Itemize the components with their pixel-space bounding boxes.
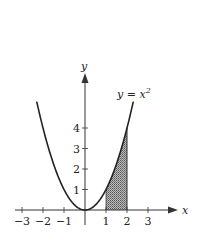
y-tick-label: 2 bbox=[73, 163, 80, 176]
x-tick-label: 3 bbox=[145, 215, 152, 228]
x-axis-label: x bbox=[182, 204, 189, 217]
x-tick-label: −1 bbox=[56, 215, 72, 228]
x-tick-label: −3 bbox=[14, 215, 30, 228]
y-tick-label: 4 bbox=[73, 122, 80, 135]
x-axis-arrow-icon bbox=[168, 207, 178, 214]
y-tick-label: 1 bbox=[73, 184, 80, 197]
curve-label: y = x2 bbox=[116, 86, 151, 101]
y-axis-arrow-icon bbox=[82, 73, 89, 83]
parabola-chart: −3−2−1123 1234 x y y = x2 bbox=[0, 0, 205, 244]
curve-label-base: y = x bbox=[116, 88, 146, 101]
curve-label-exponent: 2 bbox=[145, 86, 151, 95]
x-tick-label: 1 bbox=[103, 215, 110, 228]
y-ticks: 1234 bbox=[73, 122, 88, 197]
y-axis-label: y bbox=[80, 60, 88, 73]
y-tick-label: 3 bbox=[73, 143, 80, 156]
x-tick-label: −2 bbox=[35, 215, 51, 228]
x-tick-label: 2 bbox=[124, 215, 131, 228]
